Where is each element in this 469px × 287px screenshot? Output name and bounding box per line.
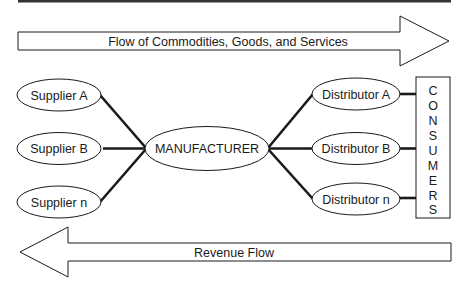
distributor-n-label: Distributor n	[322, 193, 389, 207]
distributor-b-node: Distributor B	[312, 133, 400, 165]
revenue-flow-arrow: Revenue Flow	[20, 227, 451, 277]
edge-distributor-n	[268, 149, 313, 199]
distributor-connectors	[268, 94, 313, 199]
consumers-letter: S	[429, 129, 437, 143]
supplier-n-node: Supplier n	[17, 186, 101, 218]
supplier-a-node: Supplier A	[17, 79, 101, 111]
consumer-connectors	[399, 94, 416, 198]
top-rule	[18, 0, 451, 3]
supplier-a-label: Supplier A	[31, 89, 89, 103]
supplier-n-label: Supplier n	[31, 196, 87, 210]
consumers-letter: N	[428, 114, 437, 128]
distributor-a-node: Distributor A	[312, 78, 400, 110]
supplier-connectors	[100, 95, 146, 202]
consumers-letter: C	[428, 84, 437, 98]
consumers-letter: R	[428, 189, 437, 203]
distributor-a-label: Distributor A	[322, 88, 391, 102]
supplier-b-node: Supplier B	[17, 133, 101, 165]
consumers-letter: E	[429, 174, 437, 188]
distributor-b-label: Distributor B	[322, 142, 391, 156]
edge-supplier-n	[100, 149, 146, 202]
consumers-letter: O	[428, 99, 438, 113]
supplier-b-label: Supplier B	[30, 142, 88, 156]
edge-distributor-a	[268, 94, 313, 148]
goods-flow-label: Flow of Commodities, Goods, and Services	[108, 35, 348, 49]
goods-flow-arrow: Flow of Commodities, Goods, and Services	[18, 16, 449, 66]
consumers-letter: S	[429, 203, 437, 217]
manufacturer-node: MANUFACTURER	[145, 127, 269, 171]
edge-supplier-a	[100, 95, 146, 148]
supply-chain-diagram: Flow of Commodities, Goods, and Services…	[0, 0, 469, 287]
consumers-letter: M	[428, 159, 438, 173]
distributor-n-node: Distributor n	[312, 183, 400, 215]
revenue-flow-label: Revenue Flow	[194, 246, 275, 260]
consumers-node: C O N S U M E R S	[416, 77, 450, 218]
consumers-letter: U	[428, 144, 437, 158]
manufacturer-label: MANUFACTURER	[155, 142, 259, 156]
